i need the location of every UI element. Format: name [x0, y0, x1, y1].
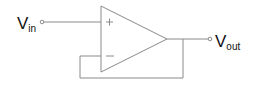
input-label: Vin [17, 14, 36, 34]
output-label: Vout [215, 32, 240, 52]
input-terminal [40, 20, 44, 24]
op-amp [101, 6, 167, 72]
circuit-diagram: Vin Vout [0, 0, 254, 85]
output-terminal [208, 37, 212, 41]
